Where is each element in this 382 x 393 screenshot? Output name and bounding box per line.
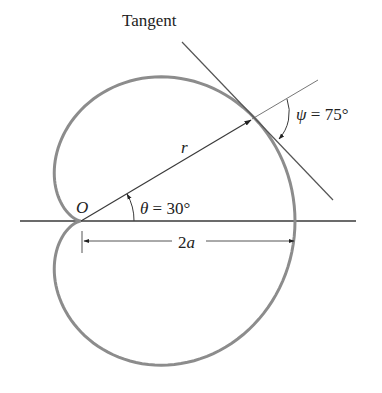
- two-a-variable: a: [187, 233, 196, 252]
- two-a-label: 2a: [178, 233, 195, 252]
- origin-label: O: [76, 198, 88, 217]
- psi-angle-arc: [279, 99, 289, 139]
- psi-symbol: ψ: [296, 105, 307, 124]
- psi-value: = 75°: [307, 105, 349, 124]
- tangent-label: Tangent: [122, 11, 177, 30]
- theta-angle-arc: [127, 194, 134, 221]
- r-label: r: [181, 138, 188, 157]
- two-a-coefficient: 2: [178, 233, 187, 252]
- theta-symbol: θ: [140, 199, 148, 218]
- cardioid-diagram: Tangent r O θ = 30° ψ = 75° 2a: [0, 0, 382, 393]
- psi-label: ψ = 75°: [296, 105, 348, 124]
- theta-label: θ = 30°: [140, 199, 190, 218]
- theta-value: = 30°: [148, 199, 190, 218]
